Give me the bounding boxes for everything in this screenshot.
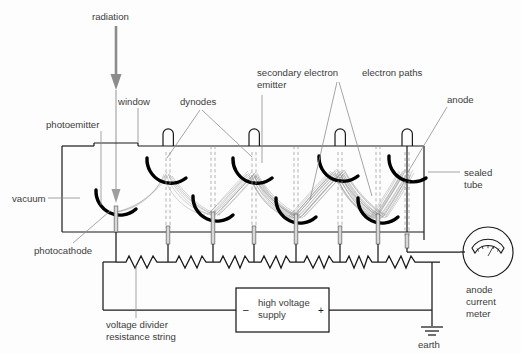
sealed-tube-label-line2: tube [464,179,483,190]
voltage-divider-label-line1: voltage divider [106,319,169,330]
meter-body [463,227,513,277]
dynode-4-pin [294,214,298,244]
anode-current-meter: anode current meter [463,227,513,319]
secondary-electron-emitter-label-line1: secondary electron [257,67,338,78]
earth-symbol: earth [418,327,443,350]
dynode-2-pin [211,212,215,244]
photocathode-pin [114,206,118,232]
voltage-divider-label-line2: resistance string [106,331,176,342]
supply-positive-sign: + [318,305,324,316]
dynodes-label: dynodes [180,96,216,107]
anode-pin [405,234,409,248]
photocathode-label: photocathode [34,245,92,256]
meter-needle [488,247,493,256]
dynode-6-pin [376,214,380,244]
anode-current-meter-label-line3: meter [466,308,491,319]
dynode-4 [276,146,316,244]
resistor-2 [168,256,213,268]
high-voltage-supply-label-line2: supply [258,309,286,320]
high-voltage-supply: – + high voltage supply [236,288,329,332]
anode-current-meter-label-line2: current [466,296,496,307]
voltage-divider-resistance-string [116,232,440,268]
electron-paths-bundle [116,169,414,220]
earth-label: earth [418,339,440,350]
resistor-7 [378,256,440,268]
photomultiplier-diagram: – + high voltage supply earth anode curr… [0,0,521,353]
dynode-3-pin [252,226,256,244]
secondary-electron-emitter-label-line2: emitter [257,79,287,90]
resistor-5 [296,256,340,268]
resistor-6 [340,256,378,268]
radiation-arrow [111,26,122,203]
anode-label: anode [447,94,474,105]
supply-negative-sign: – [243,304,249,315]
radiation-label: radiation [92,11,129,22]
sealed-tube-label-line1: sealed [464,167,492,178]
photoemitter-label: photoemitter [46,119,100,130]
anode-terminal-hook [402,129,412,146]
radiation-arrowhead [111,74,122,90]
vacuum-label: vacuum [12,193,46,204]
resistor-1 [116,256,168,268]
dynode-5-terminal-hook [335,129,345,146]
dynode-1-terminal-hook [163,129,173,146]
diagram-canvas: – + high voltage supply earth anode curr… [0,0,521,353]
resistor-3 [213,256,254,268]
dynode-1-pin [166,226,170,244]
dynode-5-pin [338,226,342,244]
resistor-4 [254,256,296,268]
dynode-6 [358,146,398,244]
high-voltage-supply-label-line1: high voltage [258,297,310,308]
radiation-arrowhead-inner [112,189,121,203]
electron-paths-label: electron paths [362,67,422,78]
window-label: window [117,96,150,107]
dynode-3-terminal-hook [249,129,259,146]
anode-current-meter-label-line1: anode [466,284,493,295]
